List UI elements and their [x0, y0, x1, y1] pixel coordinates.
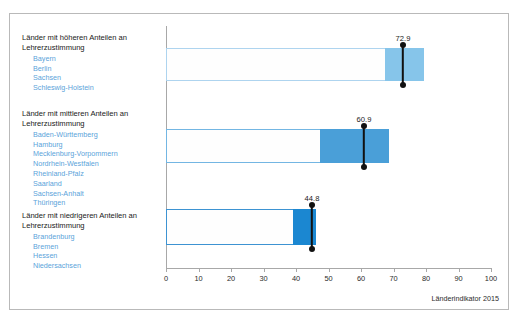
- source-note: Länderindikator 2015: [431, 294, 499, 303]
- x-tick-mark: [231, 269, 232, 272]
- legend-group-low: Länder mit niedrigeren Anteilen an Lehre…: [22, 211, 157, 271]
- value-label: 60.9: [357, 115, 372, 124]
- list-item: Niedersachsen: [22, 261, 157, 271]
- plot-area: 72.9 60.9 44.8 0102030405060708090100: [157, 14, 508, 309]
- list-item: Nordrhein-Westfalen: [22, 159, 157, 169]
- bar-row: 60.9: [157, 129, 508, 175]
- x-tick-label: 70: [389, 274, 397, 283]
- x-tick-label: 50: [324, 274, 332, 283]
- value-label: 44.8: [305, 194, 320, 203]
- list-item: Sachsen-Anhalt: [22, 189, 157, 199]
- bar-outline-high: [166, 48, 394, 81]
- x-tick-label: 100: [485, 274, 497, 283]
- legend-panel: Länder mit höheren Anteilen an Lehrerzus…: [10, 14, 157, 309]
- x-tick-mark: [296, 269, 297, 272]
- legend-group-middle: Länder mit mittleren Anteilen an Lehrerz…: [22, 109, 157, 208]
- bar-fill-high: [385, 48, 424, 81]
- list-item: Berlin: [22, 64, 157, 74]
- x-tick-label: 60: [357, 274, 365, 283]
- bar-outline-low: [166, 209, 302, 245]
- bar-row: 72.9: [157, 48, 508, 94]
- legend-group-title-line1: Länder mit mittleren Anteilen an: [22, 109, 128, 118]
- state-list: Baden-Württemberg Hamburg Mecklenburg-Vo…: [22, 130, 157, 208]
- x-tick-label: 10: [194, 274, 202, 283]
- list-item: Schleswig-Holstein: [22, 83, 157, 93]
- x-tick-mark: [361, 269, 362, 272]
- value-marker-dot-bottom: [361, 164, 367, 170]
- legend-group-title-line2: Lehrerzustimmung: [22, 43, 85, 52]
- x-tick-label: 0: [164, 274, 168, 283]
- legend-group-title: Länder mit höheren Anteilen an Lehrerzus…: [22, 33, 157, 54]
- list-item: Brandenburg: [22, 232, 157, 242]
- state-list: Bayern Berlin Sachsen Schleswig-Holstein: [22, 54, 157, 93]
- list-item: Baden-Württemberg: [22, 130, 157, 140]
- x-tick-mark: [459, 269, 460, 272]
- list-item: Mecklenburg-Vorpommern: [22, 149, 157, 159]
- bar-fill-middle: [320, 129, 389, 163]
- legend-group-title-line1: Länder mit höheren Anteilen an: [22, 33, 127, 42]
- legend-group-title-line2: Lehrerzustimmung: [22, 221, 85, 230]
- x-tick-mark: [264, 269, 265, 272]
- legend-group-high: Länder mit höheren Anteilen an Lehrerzus…: [22, 33, 157, 93]
- value-marker-line: [311, 205, 313, 249]
- x-tick-mark: [394, 269, 395, 272]
- x-tick-label: 40: [292, 274, 300, 283]
- value-label: 72.9: [396, 34, 411, 43]
- state-list: Brandenburg Bremen Hessen Niedersachsen: [22, 232, 157, 271]
- value-marker-dot-bottom: [309, 246, 315, 252]
- x-tick-label: 90: [454, 274, 462, 283]
- legend-group-title-line2: Lehrerzustimmung: [22, 119, 85, 128]
- list-item: Hamburg: [22, 140, 157, 150]
- list-item: Rheinland-Pfalz: [22, 169, 157, 179]
- list-item: Bayern: [22, 54, 157, 64]
- list-item: Saarland: [22, 179, 157, 189]
- bar-row: 44.8: [157, 209, 508, 257]
- value-marker-dot-bottom: [400, 82, 406, 88]
- x-tick-mark: [491, 269, 492, 272]
- chart-figure: Länder mit höheren Anteilen an Lehrerzus…: [9, 13, 509, 310]
- x-tick-mark: [199, 269, 200, 272]
- x-tick-mark: [329, 269, 330, 272]
- list-item: Sachsen: [22, 73, 157, 83]
- bar-outline-middle: [166, 129, 329, 163]
- value-marker-line: [402, 45, 404, 85]
- list-item: Bremen: [22, 242, 157, 252]
- legend-group-title: Länder mit mittleren Anteilen an Lehrerz…: [22, 109, 157, 130]
- x-tick-mark: [426, 269, 427, 272]
- legend-group-title: Länder mit niedrigeren Anteilen an Lehre…: [22, 211, 157, 232]
- x-tick-label: 30: [259, 274, 267, 283]
- legend-group-title-line1: Länder mit niedrigeren Anteilen an: [22, 211, 137, 220]
- value-marker-line: [363, 126, 365, 167]
- list-item: Thüringen: [22, 198, 157, 208]
- x-tick-label: 80: [422, 274, 430, 283]
- x-tick-mark: [166, 269, 167, 272]
- list-item: Hessen: [22, 251, 157, 261]
- x-tick-label: 20: [227, 274, 235, 283]
